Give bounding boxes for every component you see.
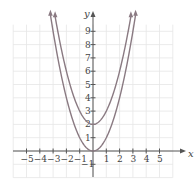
x-tick-label: −5 <box>21 154 35 164</box>
y-tick-label: 8 <box>85 40 91 50</box>
y-tick-label: 5 <box>85 80 91 90</box>
curve-arrow-icon <box>129 11 134 17</box>
curve-arrow-icon <box>48 10 53 16</box>
y-tick-label: −1 <box>81 159 94 169</box>
curve-arrow-icon <box>53 11 58 17</box>
graph: xy−5−4−3−2−112345−1123456789 <box>0 0 194 179</box>
x-tick-label: 2 <box>117 154 123 164</box>
y-tick-label: 6 <box>85 66 91 76</box>
y-tick-label: 9 <box>85 26 91 36</box>
y-tick-label: 3 <box>85 106 91 116</box>
x-axis-label: x <box>188 148 194 159</box>
x-tick-label: −3 <box>47 154 61 164</box>
y-tick-label: 4 <box>85 93 91 103</box>
x-tick-label: 3 <box>130 154 136 164</box>
y-tick-label: 7 <box>85 53 91 63</box>
x-axis-arrow-icon <box>180 149 186 154</box>
x-tick-label: 4 <box>144 154 150 164</box>
y-tick-label: 1 <box>85 133 91 143</box>
x-tick-label: −4 <box>34 154 48 164</box>
x-tick-label: 5 <box>157 154 163 164</box>
y-axis-arrow-icon <box>91 11 96 17</box>
x-tick-label: −2 <box>60 154 73 164</box>
y-axis-label: y <box>83 8 90 19</box>
curve-arrow-icon <box>133 10 138 16</box>
x-tick-label: 1 <box>104 154 110 164</box>
